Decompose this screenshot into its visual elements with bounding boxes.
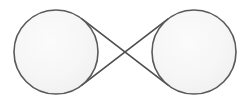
diagram-canvas xyxy=(0,0,250,103)
left-pulley xyxy=(14,10,98,94)
crossed-belt-diagram xyxy=(0,0,250,103)
right-pulley xyxy=(152,10,236,94)
